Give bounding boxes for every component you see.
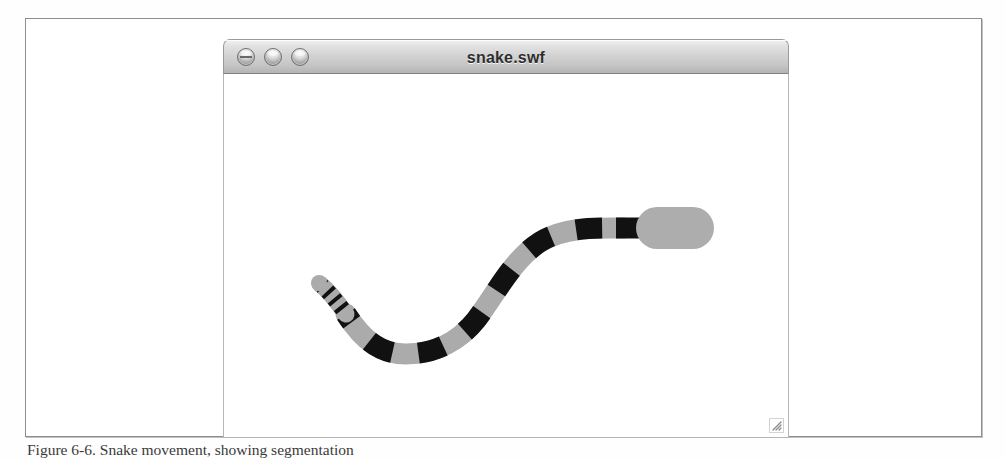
snake-graphic (224, 74, 789, 438)
snake-tail (311, 275, 346, 314)
resize-grip-icon[interactable] (769, 418, 784, 433)
window-title: snake.swf (224, 40, 788, 75)
flash-player-window: snake.swf (223, 39, 789, 438)
screenshot-frame: snake.swf (25, 18, 982, 437)
snake-body-base (346, 228, 624, 354)
window-title-bar[interactable]: snake.swf (223, 39, 789, 74)
player-content-area (223, 74, 789, 438)
figure-caption: Figure 6-6. Snake movement, showing segm… (27, 441, 967, 458)
scanned-page: snake.swf (0, 0, 1005, 458)
snake-head (636, 207, 714, 249)
snake-stage (224, 74, 789, 438)
